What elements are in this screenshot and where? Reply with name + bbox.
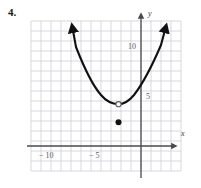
graph-grid xyxy=(31,21,181,171)
worksheet-problem-page: 4. xyxy=(0,0,201,188)
graph-svg-canvas: x y − 10 − 5 10 5 xyxy=(0,0,201,188)
y-tick-label-10: 10 xyxy=(128,42,136,51)
y-axis-name-label: y xyxy=(147,9,152,18)
x-tick-label-neg10: − 10 xyxy=(39,151,54,160)
x-tick-label-neg5: − 5 xyxy=(89,151,100,160)
coordinate-graph-figure: x y − 10 − 5 10 5 xyxy=(0,0,201,188)
open-circle-hole-marker xyxy=(116,102,121,107)
y-tick-label-5: 5 xyxy=(146,92,150,101)
filled-point-marker xyxy=(116,119,122,125)
x-axis-name-label: x xyxy=(180,129,185,138)
